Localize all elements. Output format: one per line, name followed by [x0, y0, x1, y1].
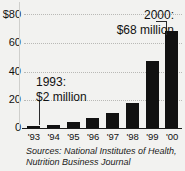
- x-axis-line: [22, 128, 182, 129]
- annotation-1993-year: 1993:: [36, 76, 87, 89]
- x-tick-label-97: '97: [103, 131, 123, 142]
- bar-slot: [64, 14, 84, 129]
- bar-98: [126, 103, 139, 129]
- x-tick-label-99: '99: [143, 131, 163, 142]
- source-line-2: Nutrition Business Journal: [26, 157, 131, 167]
- y-axis-line: [19, 2, 20, 129]
- y-tick-label-40: 40: [0, 66, 21, 77]
- leader-line-1993: [39, 101, 40, 125]
- x-tick-label-96: '96: [83, 131, 103, 142]
- x-tick-label-94: '94: [44, 131, 64, 142]
- x-tick-label-00: '00: [162, 131, 182, 142]
- annotation-2000: 2000: $68 million: [86, 9, 174, 36]
- y-tick-label-0: 0: [0, 122, 21, 133]
- annotation-2000-year: 2000:: [86, 9, 174, 22]
- bar-slot: [24, 14, 44, 129]
- bar-00: [165, 31, 178, 129]
- bar-chart: $80 60 40 20 0 '93'94'95'96'97'98'99'00 …: [0, 0, 185, 171]
- bar-slot: [44, 14, 64, 129]
- y-tick-label-80: $80: [0, 9, 21, 20]
- x-tick-label-93: '93: [24, 131, 44, 142]
- bar-99: [146, 61, 159, 129]
- source-note: Sources: National Institutes of Health, …: [26, 146, 184, 167]
- x-axis-labels: '93'94'95'96'97'98'99'00: [24, 131, 182, 144]
- x-tick-label-98: '98: [123, 131, 143, 142]
- annotation-1993-value: $2 million: [36, 91, 87, 104]
- annotation-1993: 1993: $2 million: [36, 76, 87, 103]
- y-tick-label-60: 60: [0, 37, 21, 48]
- bar-97: [106, 113, 119, 129]
- annotation-2000-value: $68 million: [86, 24, 174, 37]
- y-tick-label-20: 20: [0, 94, 21, 105]
- x-tick-label-95: '95: [64, 131, 84, 142]
- source-line-1: Sources: National Institutes of Health,: [26, 146, 177, 156]
